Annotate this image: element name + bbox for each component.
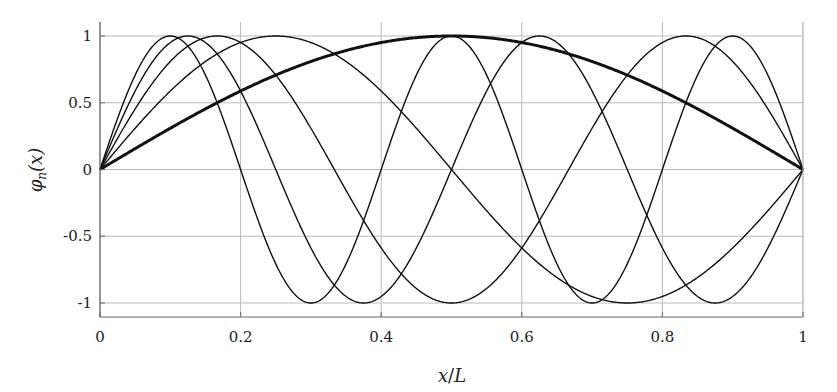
y-tick-label: 0 (82, 161, 92, 179)
x-tick-label: 0.2 (229, 328, 253, 346)
y-tick-label: 0.5 (68, 94, 92, 112)
x-tick-label: 0.8 (650, 328, 674, 346)
x-tick-label: 1 (798, 328, 808, 346)
x-tick-labels: 00.20.40.60.81 (95, 328, 808, 346)
x-tick-label: 0.4 (369, 328, 393, 346)
y-tick-labels: 10.50-0.5-1 (63, 27, 92, 312)
y-tick-label: -1 (77, 294, 92, 312)
y-tick-label: -0.5 (63, 227, 92, 245)
x-tick-label: 0 (95, 328, 105, 346)
x-axis-label: x/L (438, 365, 466, 386)
x-tick-label: 0.6 (510, 328, 534, 346)
chart: 00.20.40.60.81 10.50-0.5-1 x/L φn(x) (0, 0, 837, 392)
y-axis-label: φn(x) (25, 148, 49, 193)
y-tick-label: 1 (82, 27, 92, 45)
